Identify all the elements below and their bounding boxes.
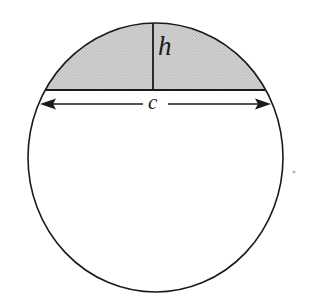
chord-label: c (148, 92, 157, 113)
shaded-segment (0, 0, 310, 90)
scan-speck (292, 170, 295, 173)
circle-segment-figure (0, 0, 310, 307)
diagram-canvas: h c (0, 0, 310, 307)
height-label: h (158, 33, 172, 60)
